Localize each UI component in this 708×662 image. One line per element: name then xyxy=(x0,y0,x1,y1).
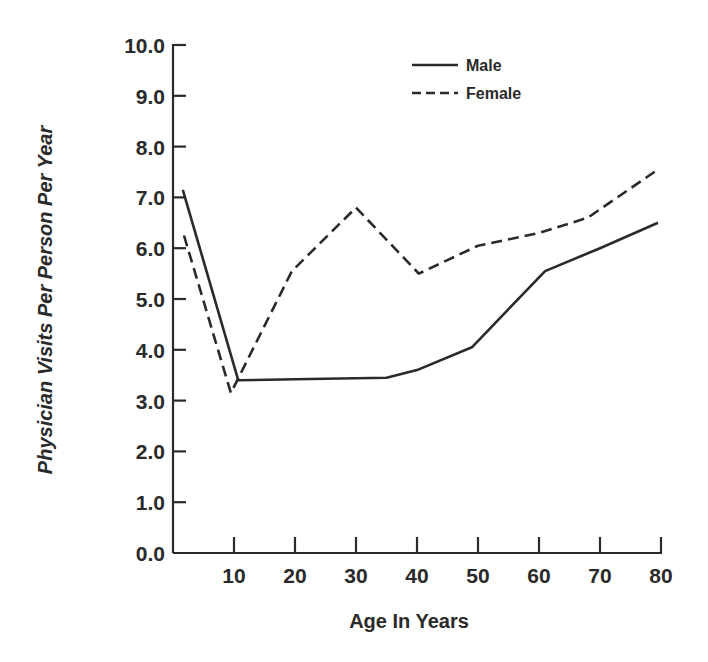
y-tick-label: 8.0 xyxy=(136,136,165,159)
x-axis: 1020304050607080 xyxy=(173,537,673,587)
y-tick-label: 3.0 xyxy=(136,390,165,413)
y-tick-label: 1.0 xyxy=(136,491,165,514)
series-female-line xyxy=(184,170,658,394)
y-tick-label: 2.0 xyxy=(136,440,165,463)
y-tick-label: 7.0 xyxy=(136,186,165,209)
y-tick-label: 9.0 xyxy=(136,85,165,108)
y-axis-title: Physician Visits Per Person Per Year xyxy=(34,125,56,475)
x-tick-label: 20 xyxy=(283,564,306,587)
y-tick-label: 0.0 xyxy=(136,542,165,565)
legend-female-label: Female xyxy=(466,85,521,102)
x-tick-label: 60 xyxy=(527,564,550,587)
y-tick-label: 5.0 xyxy=(136,288,165,311)
line-chart: 0.01.02.03.04.05.06.07.08.09.010.0 10203… xyxy=(0,0,708,662)
y-tick-label: 6.0 xyxy=(136,237,165,260)
legend: Male Female xyxy=(412,57,521,102)
series-layer xyxy=(183,170,658,394)
y-axis: 0.01.02.03.04.05.06.07.08.09.010.0 xyxy=(124,34,186,565)
x-tick-label: 40 xyxy=(405,564,428,587)
legend-male-label: Male xyxy=(466,57,502,74)
y-tick-label: 10.0 xyxy=(124,34,165,57)
y-tick-label: 4.0 xyxy=(136,339,165,362)
x-axis-title: Age In Years xyxy=(349,610,469,632)
x-tick-label: 80 xyxy=(649,564,672,587)
x-tick-label: 70 xyxy=(588,564,611,587)
x-tick-label: 30 xyxy=(344,564,367,587)
x-tick-label: 50 xyxy=(466,564,489,587)
x-tick-label: 10 xyxy=(222,564,245,587)
series-male-line xyxy=(183,190,658,380)
